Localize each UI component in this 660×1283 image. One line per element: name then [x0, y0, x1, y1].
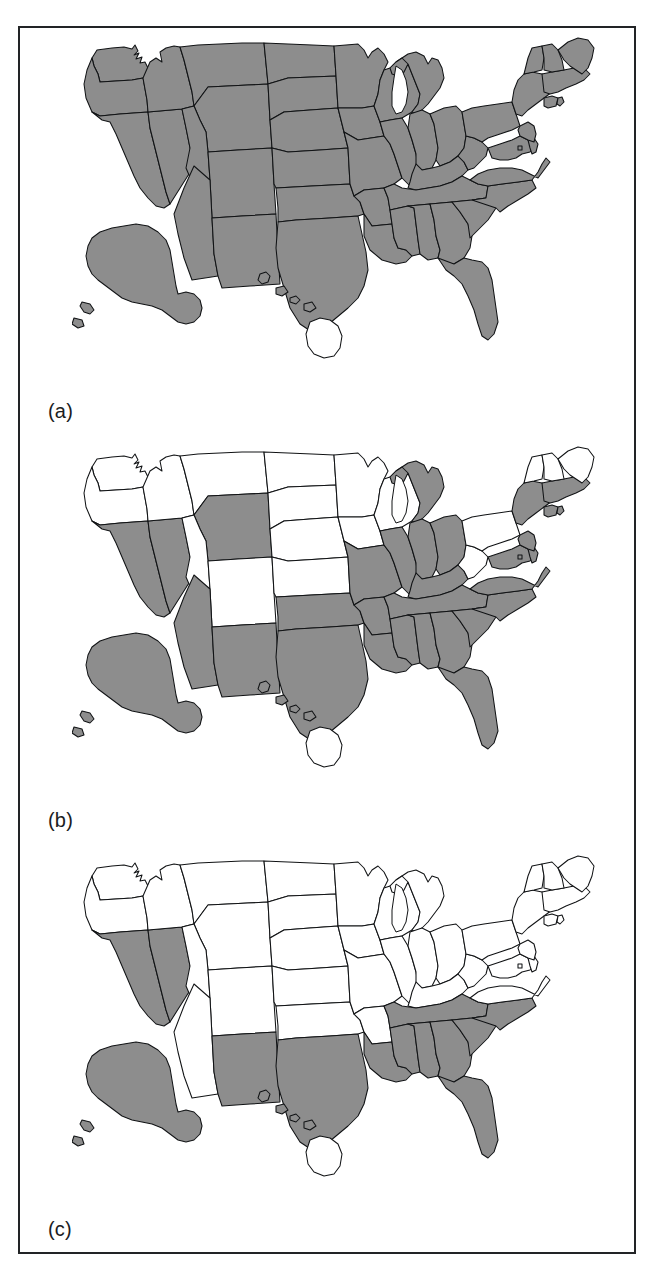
state-dc [518, 146, 522, 150]
state-ct [544, 914, 558, 926]
state-tx [276, 1034, 368, 1150]
us-map-svg-c [72, 854, 612, 1204]
panel-label-b: (b) [48, 809, 73, 832]
panel-label-a: (a) [48, 400, 73, 423]
state-hi-big-island [306, 1136, 342, 1176]
state-ct [544, 96, 558, 108]
map-panel-c: (c) [20, 846, 638, 1255]
state-vt [524, 46, 544, 74]
state-ri [557, 97, 564, 106]
map-panel-a: (a) [20, 28, 638, 437]
state-dc [518, 964, 522, 968]
state-va [470, 158, 550, 186]
state-va [470, 976, 550, 1004]
state-hi-big-island [306, 318, 342, 358]
state-ne [270, 108, 348, 152]
panel-label-c: (c) [48, 1218, 72, 1241]
state-dc [518, 555, 522, 559]
state-ks [272, 148, 350, 188]
state-co [208, 966, 276, 1036]
state-vt [524, 864, 544, 892]
state-co [208, 557, 276, 627]
state-ct [544, 505, 558, 517]
state-ne [270, 926, 348, 970]
us-map-svg-b [72, 445, 612, 795]
state-pa [462, 511, 520, 551]
state-ri [557, 506, 564, 515]
state-pa [462, 102, 520, 142]
state-tx [276, 216, 368, 332]
state-ks [272, 966, 350, 1006]
figure-frame: (a) (b) (c) [18, 26, 636, 1254]
us-map-c [72, 854, 612, 1204]
us-map-b [72, 445, 612, 795]
state-vt [524, 455, 544, 483]
state-hi-big-island [306, 727, 342, 767]
map-panel-b: (b) [20, 437, 638, 846]
state-pa [462, 920, 520, 960]
state-tx [276, 625, 368, 741]
us-map-a [72, 36, 612, 386]
state-fl [438, 258, 498, 340]
state-va [470, 567, 550, 595]
state-ri [557, 915, 564, 924]
us-map-svg-a [72, 36, 612, 386]
state-co [208, 148, 276, 218]
state-fl [438, 1076, 498, 1158]
state-fl [438, 667, 498, 749]
state-ks [272, 557, 350, 597]
state-ne [270, 517, 348, 561]
